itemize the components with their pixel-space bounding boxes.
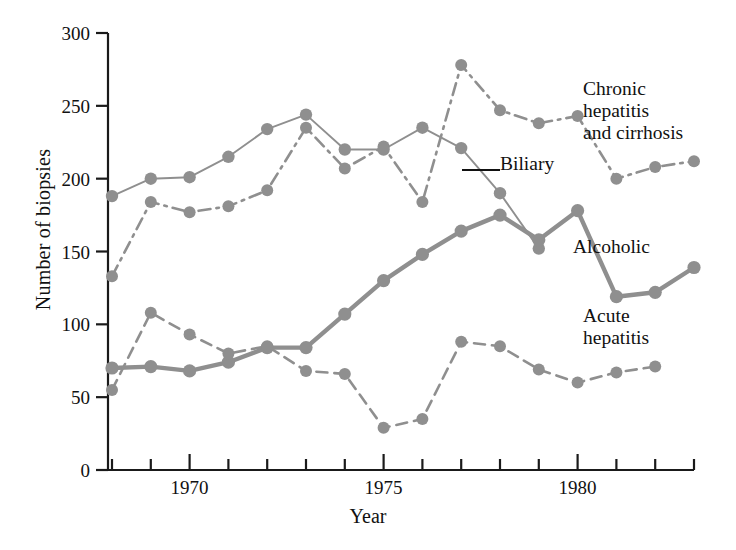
svg-text:200: 200 bbox=[62, 169, 91, 190]
x-axis-ticks: 197019751980 bbox=[112, 454, 694, 498]
chart-figure: 050100150200250300197019751980 Number of… bbox=[0, 0, 736, 550]
svg-text:100: 100 bbox=[62, 314, 91, 335]
x-axis-title: Year bbox=[0, 505, 736, 528]
series-label-acute-hepatitis: Acute hepatitis bbox=[583, 305, 649, 349]
svg-text:1970: 1970 bbox=[171, 477, 209, 498]
y-axis-title: Number of biopsies bbox=[32, 100, 55, 360]
svg-text:50: 50 bbox=[71, 387, 90, 408]
svg-text:0: 0 bbox=[81, 460, 91, 481]
y-axis-ticks: 050100150200250300 bbox=[62, 23, 109, 481]
series-label-alcoholic: Alcoholic bbox=[573, 236, 650, 258]
svg-text:300: 300 bbox=[62, 23, 91, 44]
svg-text:250: 250 bbox=[62, 96, 91, 117]
series-biliary bbox=[106, 108, 545, 254]
svg-text:1980: 1980 bbox=[559, 477, 597, 498]
series-label-chronic-hepatitis-and-cirrhosis: Chronic hepatitis and cirrhosis bbox=[583, 78, 683, 144]
svg-text:1975: 1975 bbox=[365, 477, 403, 498]
series-label-biliary: Biliary bbox=[500, 153, 554, 175]
series-alcoholic bbox=[105, 204, 700, 377]
svg-text:150: 150 bbox=[62, 242, 91, 263]
